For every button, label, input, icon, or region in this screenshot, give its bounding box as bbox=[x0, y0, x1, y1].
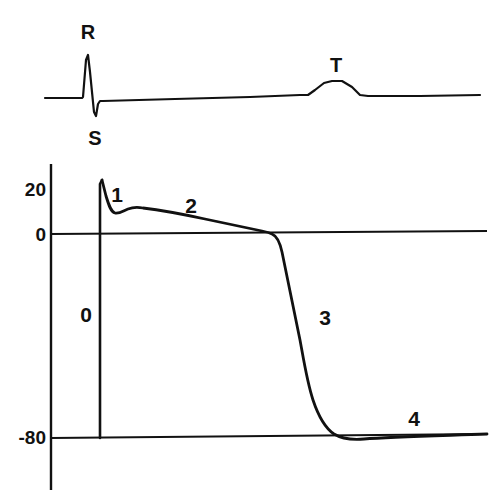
phase-label-2: 2 bbox=[185, 195, 197, 216]
y-tick-label-0: 0 bbox=[35, 225, 46, 244]
figure-canvas bbox=[0, 0, 498, 502]
action-potential-waveform bbox=[102, 180, 487, 439]
ecg-label-t: T bbox=[330, 55, 342, 75]
cardiac-action-potential-figure: R S T 20 0 -80 0 1 2 3 4 bbox=[0, 0, 498, 502]
phase-label-1: 1 bbox=[111, 184, 123, 205]
phase-label-4: 4 bbox=[408, 408, 420, 429]
y-tick-label-minus-80: -80 bbox=[19, 428, 46, 447]
ecg-label-s: S bbox=[88, 128, 101, 148]
action-potential-trace-group bbox=[100, 180, 487, 439]
phase-label-0: 0 bbox=[80, 304, 92, 325]
ecg-label-r: R bbox=[81, 22, 95, 42]
phase-label-3: 3 bbox=[319, 307, 331, 328]
phase-0-upstroke bbox=[100, 180, 102, 438]
ecg-trace-group bbox=[45, 55, 480, 116]
y-tick-label-20: 20 bbox=[25, 180, 46, 199]
ecg-waveform bbox=[45, 55, 480, 116]
